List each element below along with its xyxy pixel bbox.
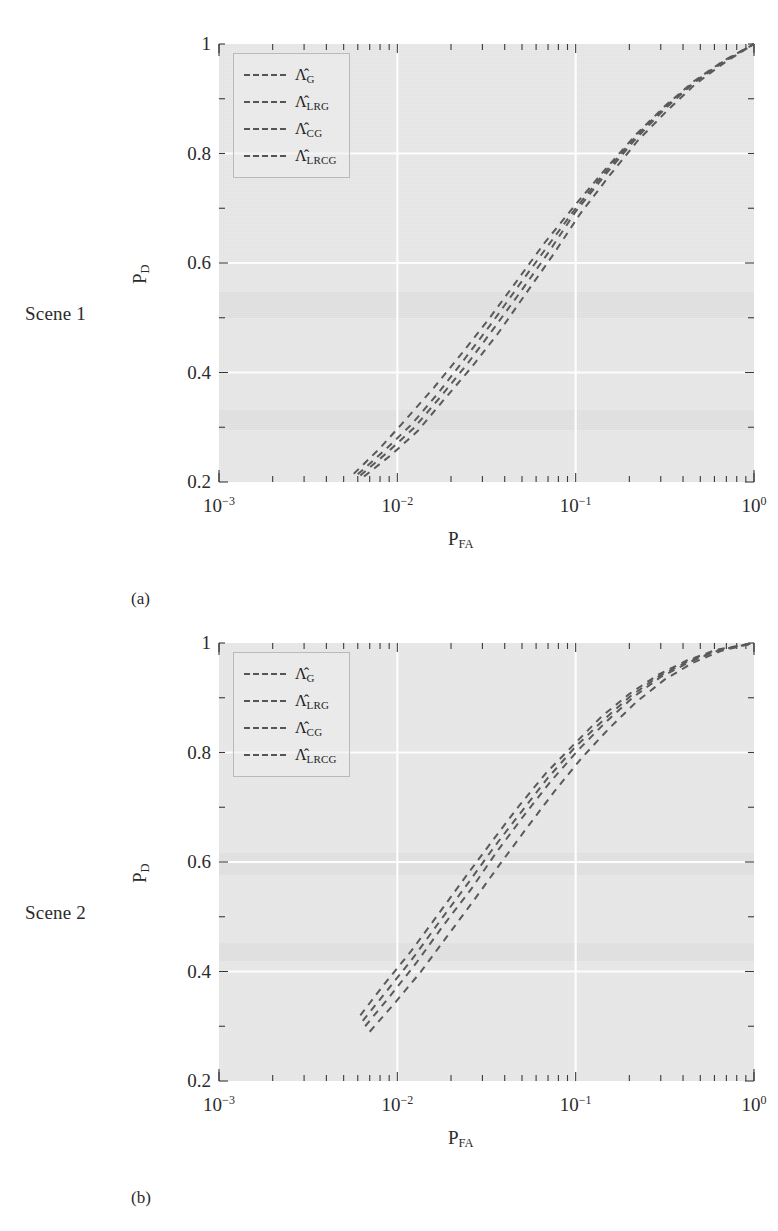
legend-dash-icon <box>244 124 286 134</box>
legend-dash-icon <box>244 723 286 733</box>
scene-row-label-2: Scene 2 <box>25 902 86 924</box>
xtick-exp: 0 <box>761 1093 767 1107</box>
xtick-exp: −3 <box>222 1093 235 1107</box>
roc-curve <box>360 44 754 475</box>
xtick-label: 10−2 <box>381 1093 413 1116</box>
ytick-label: 0.6 <box>167 851 211 873</box>
legend-label: Λ̂LRG <box>295 93 329 111</box>
xtick-exp: −3 <box>222 494 235 508</box>
ytick-label: 0.6 <box>167 252 211 274</box>
legend-item: Λ̂CG <box>244 714 337 741</box>
legend-label: Λ̂LRG <box>295 692 329 710</box>
legend-item: Λ̂LRG <box>244 687 337 714</box>
legend-sub: G <box>307 73 315 85</box>
xtick-label: 10−3 <box>203 494 235 517</box>
ytick-label: 0.8 <box>167 742 211 764</box>
ytick-label: 0.2 <box>167 471 211 493</box>
xtick-label: 10−3 <box>203 1093 235 1116</box>
y-axis-title-sub: D <box>138 863 152 872</box>
roc-curve <box>358 44 754 474</box>
xtick-exp: −1 <box>579 1093 592 1107</box>
legend-item: Λ̂G <box>244 61 337 88</box>
legend-dash-icon <box>244 696 286 706</box>
legend-dash-icon <box>244 750 286 760</box>
legend-sub: LRG <box>307 699 330 711</box>
legend-label: Λ̂G <box>295 66 315 84</box>
legend-item: Λ̂LRCG <box>244 142 337 169</box>
legend-sub: G <box>307 672 315 684</box>
xtick-label: 100 <box>742 1093 767 1116</box>
subfigure-caption-b: (b) <box>131 1188 151 1208</box>
roc-curve <box>363 643 754 1021</box>
xtick-exp: −2 <box>400 494 413 508</box>
legend-label: Λ̂LRCG <box>295 746 337 764</box>
legend-dash-icon <box>244 70 286 80</box>
plot-scene-2: 0.2 0.4 0.6 0.8 1 10−3 10−2 10−1 100 PFA… <box>219 643 754 1081</box>
legend-item: Λ̂LRCG <box>244 741 337 768</box>
x-axis-title-2: PFA <box>448 1127 474 1149</box>
legend-sub: CG <box>307 726 323 738</box>
xtick-exp: −2 <box>400 1093 413 1107</box>
xtick-exp: 0 <box>761 494 767 508</box>
legend-dash-icon <box>244 97 286 107</box>
legend-item: Λ̂CG <box>244 115 337 142</box>
legend-2: Λ̂G Λ̂LRG Λ̂CG Λ̂LRCG <box>233 652 350 777</box>
legend-dash-icon <box>244 151 286 161</box>
ytick-label: 0.8 <box>167 143 211 165</box>
plot-scene-1: 0.2 0.4 0.6 0.8 1 10−3 10−2 10−1 100 PFA… <box>219 44 754 482</box>
legend-label: Λ̂G <box>295 665 315 683</box>
xtick-exp: −1 <box>579 494 592 508</box>
panel-scene-1: Scene 1 0.2 0.4 0.6 0.8 1 10−3 10−2 10−1… <box>0 0 778 615</box>
xtick-label: 10−1 <box>560 1093 592 1116</box>
roc-curve <box>360 643 754 1015</box>
figure-roc-curves: Scene 1 0.2 0.4 0.6 0.8 1 10−3 10−2 10−1… <box>0 0 778 1231</box>
x-axis-title-sub: FA <box>459 537 474 551</box>
x-axis-title-sub: FA <box>459 1136 474 1150</box>
y-axis-title-2: PD <box>129 863 151 883</box>
scene-row-label-1: Scene 1 <box>25 303 86 325</box>
xtick-label: 10−1 <box>560 494 592 517</box>
legend-sub: LRCG <box>307 154 337 166</box>
legend-sub: LRCG <box>307 753 337 765</box>
roc-curve <box>354 44 754 474</box>
legend-label: Λ̂LRCG <box>295 147 337 165</box>
roc-curve <box>370 643 754 1032</box>
legend-1: Λ̂G Λ̂LRG Λ̂CG Λ̂LRCG <box>233 53 350 178</box>
roc-curve <box>364 44 754 477</box>
legend-label: Λ̂CG <box>295 120 322 138</box>
ytick-label: 0.4 <box>167 362 211 384</box>
legend-dash-icon <box>244 669 286 679</box>
legend-item: Λ̂G <box>244 660 337 687</box>
legend-item: Λ̂LRG <box>244 88 337 115</box>
legend-label: Λ̂CG <box>295 719 322 737</box>
ytick-label: 1 <box>167 632 211 654</box>
ytick-label: 0.4 <box>167 961 211 983</box>
ytick-label: 0.2 <box>167 1070 211 1092</box>
y-axis-title-sub: D <box>138 264 152 273</box>
xtick-label: 100 <box>742 494 767 517</box>
y-axis-title-1: PD <box>129 264 151 284</box>
xtick-label: 10−2 <box>381 494 413 517</box>
ytick-label: 1 <box>167 33 211 55</box>
x-axis-title-1: PFA <box>448 528 474 550</box>
panel-scene-2: Scene 2 0.2 0.4 0.6 0.8 1 10−3 10−2 10−1… <box>0 582 778 1231</box>
legend-sub: CG <box>307 127 323 139</box>
legend-sub: LRG <box>307 100 330 112</box>
